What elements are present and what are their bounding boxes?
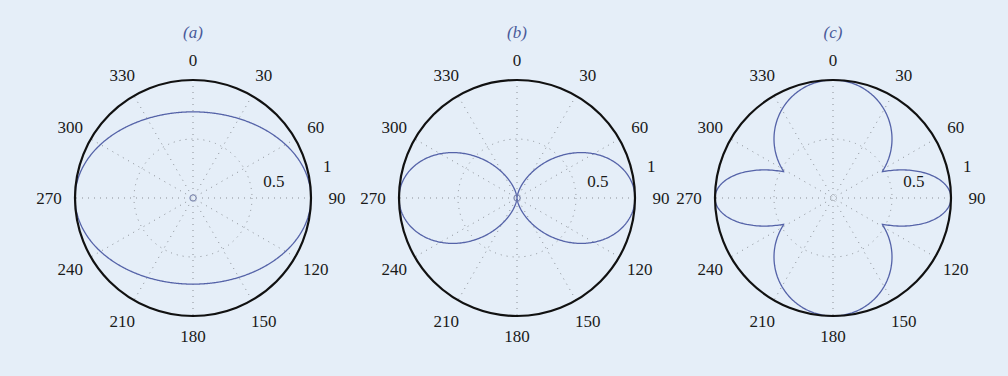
- angle-tick-0: 0: [829, 51, 838, 70]
- angle-tick-0: 0: [189, 51, 198, 70]
- grid-ring-0.5: [134, 139, 252, 257]
- angle-tick-330: 330: [749, 66, 775, 85]
- polar-plots-figure: (a)03060901201501802102402703003300.51(b…: [0, 0, 1008, 376]
- angle-tick-210: 210: [433, 312, 459, 331]
- angle-tick-60: 60: [631, 118, 648, 137]
- angle-tick-270: 270: [676, 189, 702, 208]
- angle-tick-270: 270: [360, 189, 386, 208]
- radial-tick-1: 1: [963, 157, 972, 176]
- angle-tick-30: 30: [579, 66, 596, 85]
- polar-chart-a: (a)03060901201501802102402703003300.51: [36, 23, 345, 346]
- angle-tick-240: 240: [698, 260, 724, 279]
- angle-tick-240: 240: [382, 260, 408, 279]
- grid-ring-0.5: [774, 139, 892, 257]
- angle-tick-30: 30: [895, 66, 912, 85]
- angle-tick-150: 150: [575, 312, 601, 331]
- angle-tick-60: 60: [307, 118, 324, 137]
- angle-tick-120: 120: [943, 260, 969, 279]
- series-curve-pattern-c: [715, 80, 951, 316]
- angle-tick-150: 150: [891, 312, 917, 331]
- angle-tick-180: 180: [180, 327, 206, 346]
- angle-tick-210: 210: [749, 312, 775, 331]
- series-curve-pattern-a: [75, 112, 311, 284]
- outer-axis-circle: [715, 80, 951, 316]
- angle-tick-180: 180: [504, 327, 530, 346]
- grid-spoke: [774, 96, 892, 300]
- angle-tick-300: 300: [58, 118, 84, 137]
- radial-tick-0.5: 0.5: [263, 172, 284, 191]
- angle-tick-330: 330: [109, 66, 135, 85]
- polar-chart-b: (b)03060901201501802102402703003300.51: [360, 23, 669, 346]
- radial-tick-1: 1: [323, 157, 332, 176]
- angle-tick-210: 210: [109, 312, 135, 331]
- angle-tick-240: 240: [58, 260, 84, 279]
- series-curve-pattern-b: [399, 153, 635, 244]
- angle-tick-60: 60: [947, 118, 964, 137]
- radial-tick-0.5: 0.5: [903, 172, 924, 191]
- angle-tick-90: 90: [968, 189, 985, 208]
- grid-spoke: [731, 139, 935, 257]
- angle-tick-300: 300: [382, 118, 408, 137]
- radial-tick-0.5: 0.5: [587, 172, 608, 191]
- angle-tick-120: 120: [627, 260, 653, 279]
- figure: (a)03060901201501802102402703003300.51(b…: [0, 0, 1008, 376]
- panel-label: (c): [824, 23, 843, 42]
- angle-tick-120: 120: [303, 260, 329, 279]
- angle-tick-90: 90: [652, 189, 669, 208]
- angle-tick-90: 90: [328, 189, 345, 208]
- grid-spoke: [731, 139, 935, 257]
- outer-axis-circle: [75, 80, 311, 316]
- polar-chart-c: (c)03060901201501802102402703003300.51: [676, 23, 985, 346]
- panel-label: (a): [183, 23, 203, 42]
- grid-spoke: [774, 96, 892, 300]
- angle-tick-270: 270: [36, 189, 62, 208]
- panel-label: (b): [507, 23, 527, 42]
- angle-tick-300: 300: [698, 118, 724, 137]
- angle-tick-180: 180: [820, 327, 846, 346]
- angle-tick-30: 30: [255, 66, 272, 85]
- angle-tick-330: 330: [433, 66, 459, 85]
- angle-tick-150: 150: [251, 312, 277, 331]
- radial-tick-1: 1: [647, 157, 656, 176]
- angle-tick-0: 0: [513, 51, 522, 70]
